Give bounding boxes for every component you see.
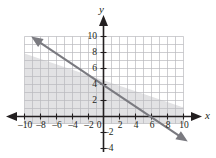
x-tick-label--6: –6: [52, 121, 62, 131]
x-tick-label-8: 8: [166, 121, 171, 131]
x-tick-label--4: –4: [68, 121, 78, 131]
x-tick-label-2: 2: [118, 121, 123, 131]
y-tick-label-2: 2: [84, 96, 97, 106]
y-tick-label-6: 6: [84, 64, 97, 74]
y-axis-label: y: [99, 4, 104, 15]
y-tick-label--2: –2: [104, 128, 118, 138]
origin-label: 0: [97, 121, 102, 131]
x-tick-label--2: –2: [84, 121, 94, 131]
x-tick-label--8: –8: [36, 121, 46, 131]
x-tick-label-4: 4: [134, 121, 139, 131]
y-tick-label-4: 4: [84, 80, 97, 90]
y-tick-label-10: 10: [84, 32, 97, 42]
x-tick-label--10: –10: [18, 121, 32, 131]
x-axis-label: x: [205, 110, 210, 121]
x-tick-label-10: 10: [179, 121, 189, 131]
coordinate-plane-figure: y x –10 –8 –6 –4 –2 0 2 4 6 8 10 10 8 6 …: [0, 0, 216, 158]
y-tick-label--4: –4: [104, 144, 118, 154]
x-tick-label-6: 6: [150, 121, 155, 131]
y-tick-label-8: 8: [84, 48, 97, 58]
